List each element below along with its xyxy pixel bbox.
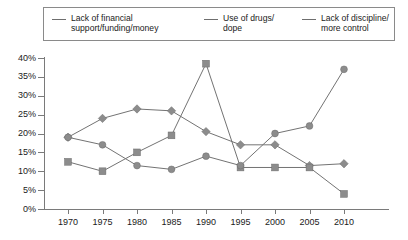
data-point-marker <box>133 105 141 113</box>
data-point-marker <box>341 66 348 73</box>
data-point-marker <box>65 134 72 141</box>
data-point-marker <box>203 60 210 67</box>
data-point-marker <box>340 160 348 168</box>
data-point-marker <box>167 107 175 115</box>
data-point-marker <box>134 149 141 156</box>
line-chart: Lack of financial support/funding/money … <box>0 0 408 240</box>
data-point-marker <box>237 162 244 169</box>
series-layer <box>0 0 408 240</box>
data-point-marker <box>168 166 175 173</box>
data-point-marker <box>271 141 279 149</box>
data-point-marker <box>99 141 106 148</box>
data-point-marker <box>168 132 175 139</box>
data-point-marker <box>272 130 279 137</box>
data-point-marker <box>236 141 244 149</box>
data-point-marker <box>98 114 106 122</box>
data-point-marker <box>341 191 348 198</box>
data-point-marker <box>99 168 106 175</box>
data-point-marker <box>134 162 141 169</box>
data-point-marker <box>65 158 72 165</box>
data-point-marker <box>203 153 210 160</box>
data-point-marker <box>306 123 313 130</box>
data-point-marker <box>202 127 210 135</box>
data-point-marker <box>272 164 279 171</box>
data-point-marker <box>306 164 313 171</box>
